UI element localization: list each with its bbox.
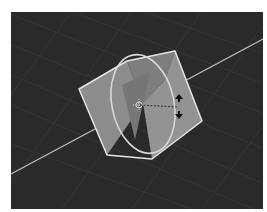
viewport-canvas[interactable]	[11, 12, 263, 209]
3d-viewport[interactable]: 3D Viewport	[11, 12, 263, 209]
